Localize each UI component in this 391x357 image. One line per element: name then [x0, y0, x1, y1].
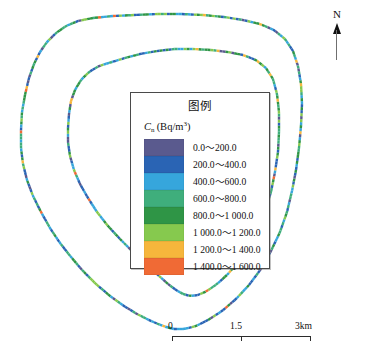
route-segment — [126, 245, 128, 247]
route-segment — [295, 170, 296, 173]
route-segment — [136, 54, 139, 55]
route-segment — [251, 58, 254, 59]
legend-color-swatch — [144, 139, 184, 156]
route-segment — [80, 267, 82, 269]
route-segment — [289, 199, 290, 202]
route-segment — [250, 22, 253, 23]
route-segment — [298, 65, 299, 68]
route-segment — [88, 276, 90, 278]
route-segment — [274, 176, 275, 179]
legend-row: 600.0～800.0 — [144, 190, 269, 207]
route-segment — [251, 280, 253, 282]
legend-label: 0.0～200.0 — [193, 139, 237, 156]
route-segment — [28, 184, 29, 187]
route-segment — [70, 256, 72, 258]
scale-bar-tick — [310, 336, 311, 341]
route-segment — [163, 280, 165, 282]
route-segment — [34, 198, 35, 201]
route-segment — [231, 53, 234, 54]
route-segment — [285, 39, 287, 41]
legend-row: 400.0～600.0 — [144, 173, 269, 190]
route-segment — [157, 323, 160, 324]
route-segment — [270, 250, 271, 253]
route-segment — [146, 318, 149, 319]
route-segment — [23, 101, 24, 104]
route-segment — [259, 24, 262, 25]
scale-bar-tick — [241, 336, 242, 341]
route-segment — [218, 281, 220, 283]
route-segment — [30, 189, 31, 192]
route-segment — [113, 61, 116, 62]
legend-row: 200.0～400.0 — [144, 156, 269, 173]
route-segment — [122, 241, 124, 243]
route-segment — [113, 298, 115, 300]
legend-color-swatch — [144, 258, 184, 275]
route-segment — [206, 290, 209, 291]
route-segment — [97, 285, 99, 287]
route-segment — [72, 163, 73, 166]
route-segment — [274, 173, 275, 176]
route-segment — [241, 292, 243, 294]
route-segment — [90, 201, 92, 204]
route-segment — [80, 80, 82, 82]
scale-bar-label-start: 0 — [168, 320, 173, 332]
route-segment — [51, 36, 53, 38]
route-segment — [26, 89, 27, 92]
route-segment — [75, 87, 77, 90]
route-segment — [292, 187, 293, 190]
route-segment — [59, 242, 61, 244]
route-segment — [118, 302, 120, 304]
route-segment — [41, 48, 43, 50]
route-segment — [135, 313, 138, 314]
route-segment — [98, 66, 101, 67]
route-segment — [99, 287, 101, 289]
route-segment — [223, 308, 225, 310]
route-segment — [216, 313, 219, 315]
route-segment — [74, 169, 75, 172]
route-segment — [256, 23, 259, 24]
route-segment — [295, 173, 296, 176]
route-segment — [264, 66, 266, 68]
route-segment — [228, 52, 231, 53]
route-segment — [159, 276, 161, 278]
route-segment — [78, 180, 79, 183]
route-segment — [274, 81, 275, 84]
route-segment — [86, 274, 88, 276]
route-segment — [54, 234, 56, 237]
route-segment — [253, 22, 256, 23]
route-segment — [197, 294, 200, 295]
route-segment — [230, 302, 232, 304]
route-segment — [180, 292, 183, 293]
route-segment — [272, 182, 273, 185]
route-segment — [273, 179, 274, 182]
route-segment — [228, 304, 230, 306]
route-segment — [77, 178, 78, 181]
legend-row: 1 200.0～1 400.0 — [144, 241, 269, 258]
route-segment — [43, 216, 44, 219]
route-segment — [138, 314, 141, 315]
route-segment — [67, 251, 69, 253]
route-segment — [101, 65, 104, 66]
route-segment — [97, 211, 99, 213]
route-segment — [82, 188, 83, 191]
route-segment — [277, 236, 278, 239]
route-segment — [81, 77, 83, 79]
legend-title: 图例 — [131, 99, 269, 113]
route-segment — [130, 310, 133, 312]
route-segment — [275, 87, 276, 90]
route-segment — [254, 59, 257, 60]
route-segment — [259, 63, 261, 65]
legend-color-swatch — [144, 173, 184, 190]
route-segment — [71, 161, 72, 164]
route-segment — [41, 211, 42, 214]
route-segment — [293, 182, 294, 185]
route-segment — [235, 298, 237, 300]
route-segment — [37, 203, 38, 206]
route-segment — [151, 321, 154, 322]
route-segment — [43, 45, 45, 47]
route-segment — [225, 306, 227, 308]
route-segment — [28, 77, 29, 80]
route-segment — [266, 68, 268, 71]
route-segment — [232, 300, 234, 302]
legend-label: 1 000.0～1 200.0 — [193, 224, 261, 241]
